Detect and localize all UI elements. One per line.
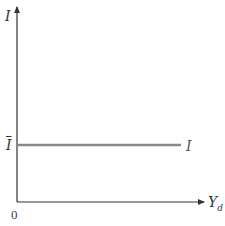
investment-line-label: I [186, 139, 192, 153]
investment-level-label: I [6, 138, 12, 152]
y-axis-label: I [5, 9, 11, 23]
x-axis-label-main: Y [208, 194, 217, 210]
x-axis-label: Yd [208, 195, 223, 213]
x-axis-label-sub: d [217, 203, 223, 213]
diagram-canvas [0, 0, 225, 226]
origin-label: 0 [11, 208, 18, 221]
